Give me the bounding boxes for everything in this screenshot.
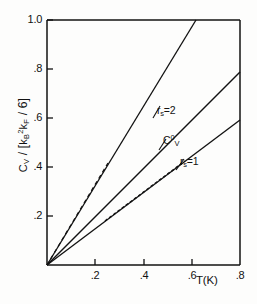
x-tick-marks — [95, 259, 192, 265]
y-title-kb-sup: 2 — [16, 129, 25, 133]
x-tick-label-1: .2 — [83, 270, 107, 281]
y-title-kf: k — [17, 124, 29, 130]
y-axis-title: CV / [kB2kF / 6] — [16, 60, 30, 210]
curve-label-rs1: rs=1 — [180, 155, 198, 167]
rs1-tail: =1 — [187, 155, 199, 167]
y-title-c: C — [17, 164, 29, 172]
cv0-sub: V — [174, 139, 179, 148]
y-title-c-sub: V — [22, 159, 31, 164]
curve-label-cv0: C0V — [163, 134, 179, 146]
y-title-kf-sub: F — [22, 119, 31, 124]
rs2-tail: =2 — [164, 104, 176, 116]
curve-cv0 — [47, 72, 240, 265]
y-tick-marks — [47, 20, 53, 216]
y-tick-label-1: 1.0 — [12, 14, 42, 25]
y-title-kb-sub: B — [22, 134, 31, 139]
y-tick-label-5: .2 — [12, 210, 42, 221]
x-tick-label-2: .4 — [132, 270, 156, 281]
y-title-div6: / 6] — [16, 98, 30, 119]
x-axis-title: T(K) — [196, 274, 218, 286]
plot-canvas — [0, 0, 257, 304]
y-title-slash: / [ — [16, 145, 30, 159]
x-tick-label-4: .8 — [228, 270, 252, 281]
y-title-kb: k — [17, 139, 29, 145]
curve-label-rs2: rs=2 — [157, 104, 175, 116]
figure-panel: 1.0 .8 .6 .4 .2 .2 .4 .6 .8 CV / [kB2kF … — [0, 0, 257, 304]
